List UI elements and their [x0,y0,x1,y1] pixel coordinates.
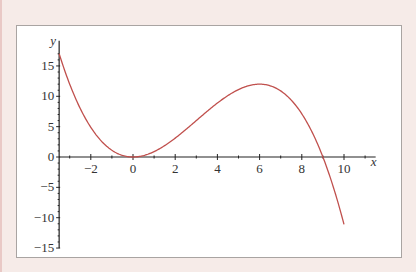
x-tick-label: 8 [299,161,306,176]
y-tick-label: 0 [48,149,55,164]
x-tick-label: 4 [214,161,221,176]
x-tick-label: 2 [172,161,179,176]
y-tick-label: 5 [48,119,55,134]
x-tick-label: 0 [130,161,137,176]
x-tick-label: 10 [338,161,351,176]
x-tick-label: 6 [256,161,263,176]
y-tick-label: −15 [34,240,54,255]
x-axis-label: x [370,154,377,169]
y-tick-label: 10 [41,88,54,103]
x-tick-label: −2 [84,161,98,176]
chart-canvas: −20246810−15−10−5051015yx [0,0,416,272]
y-tick-label: −5 [40,179,54,194]
y-tick-label: 15 [41,58,54,73]
y-axis-label: y [48,33,56,48]
y-tick-label: −10 [34,210,54,225]
function-curve [59,54,344,225]
